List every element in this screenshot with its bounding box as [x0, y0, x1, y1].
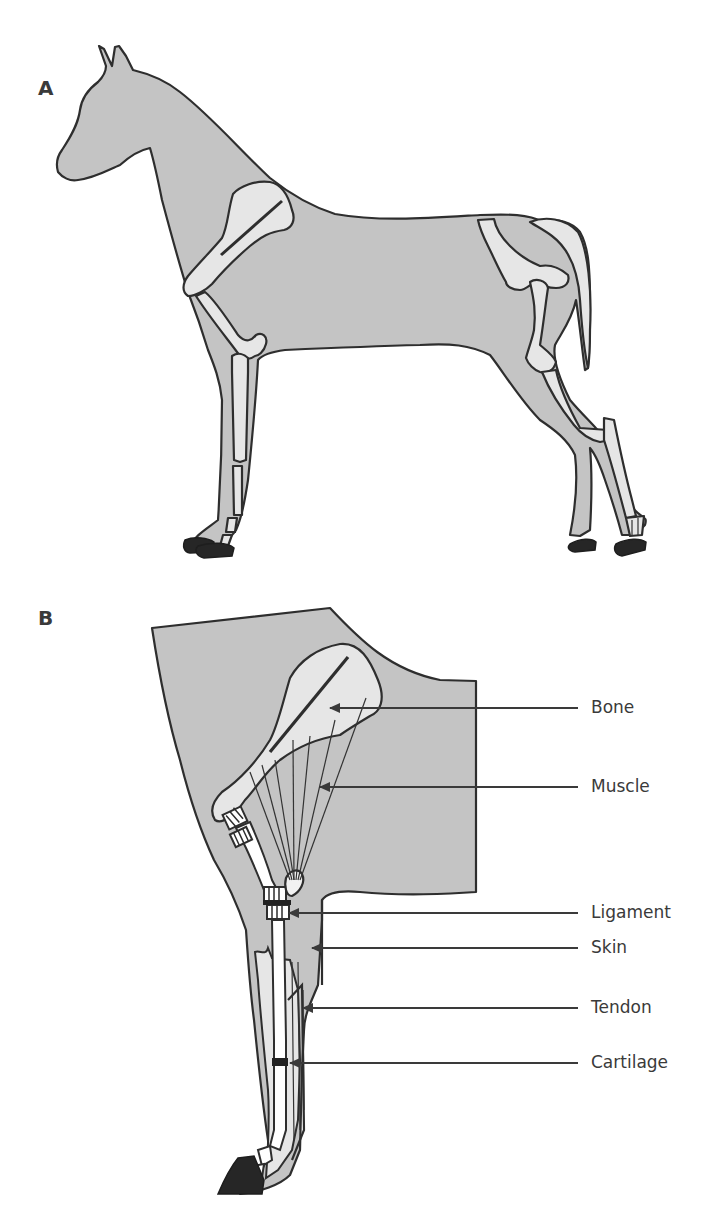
- cannon-bone-front: [233, 466, 242, 515]
- hoof-detail: [218, 1156, 264, 1194]
- label-skin: Skin: [591, 937, 627, 957]
- label-cartilage: Cartilage: [591, 1052, 668, 1072]
- hind-hoof-far: [568, 539, 596, 552]
- panel-a-horse: [57, 46, 646, 558]
- label-muscle: Muscle: [591, 776, 650, 796]
- anatomy-diagram: [0, 0, 709, 1223]
- label-ligament: Ligament: [591, 902, 671, 922]
- pastern-bone-hind: [626, 516, 644, 536]
- pastern-bone-front: [226, 518, 237, 532]
- horse-silhouette: [57, 46, 646, 552]
- radius-bone: [232, 354, 248, 462]
- front-hoof-near: [196, 543, 234, 558]
- cartilage-block: [272, 1058, 288, 1066]
- hind-hoof-near: [615, 539, 646, 556]
- label-tendon: Tendon: [591, 997, 652, 1017]
- panel-b-forelimb: [152, 608, 578, 1194]
- label-bone: Bone: [591, 697, 634, 717]
